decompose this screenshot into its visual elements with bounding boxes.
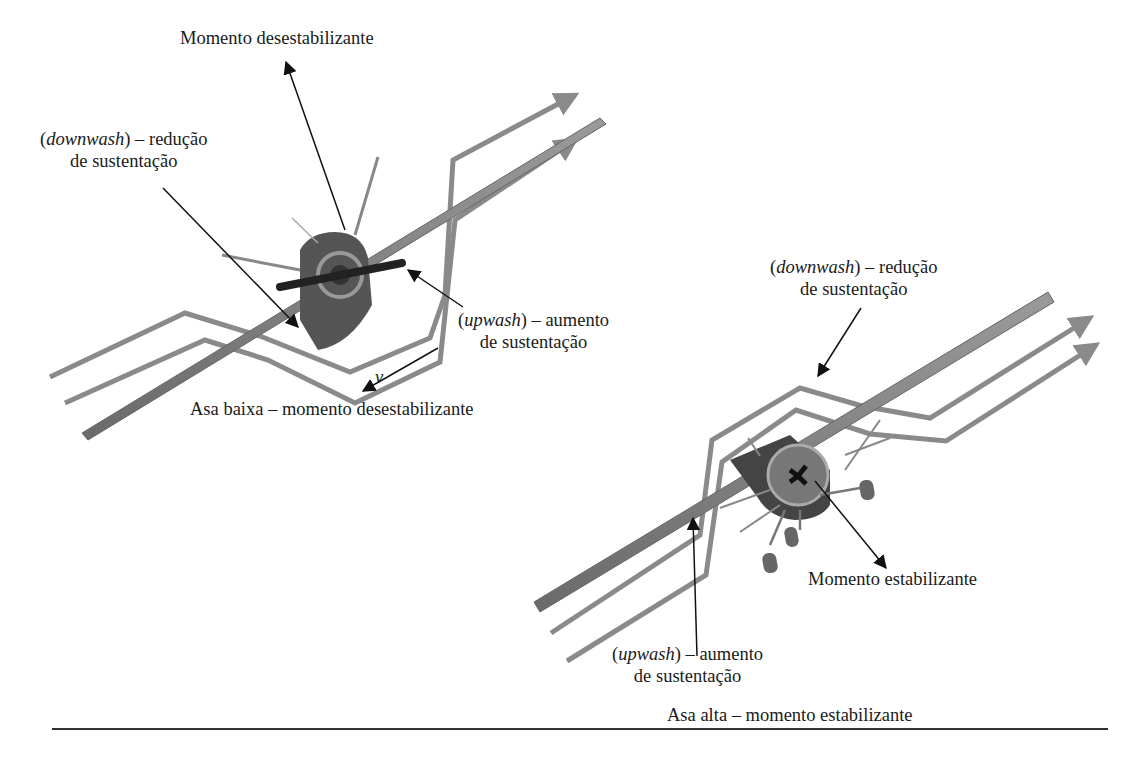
label-upwash-left: (upwash) – aumento de sustentação (458, 309, 609, 353)
downwash-term: downwash (776, 257, 854, 277)
arrow-downwash-left (163, 188, 298, 327)
streamline-4 (567, 345, 1096, 661)
caption-low-wing: Asa baixa – momento desestabilizante (190, 398, 474, 420)
arrow-stabilizing-moment (815, 481, 886, 568)
label-downwash-left: (downwash) – redução de sustentação (40, 128, 208, 172)
upwash-term: upwash (618, 644, 675, 664)
low-wing-aircraft-group (50, 62, 606, 440)
bottom-divider (52, 728, 1108, 730)
arrow-downwash-right (818, 308, 861, 376)
label-stabilizing-moment: Momento estabilizante (808, 568, 977, 590)
downwash-term: downwash (46, 129, 124, 149)
wing-stability-diagram (0, 0, 1142, 772)
label-destabilizing-moment: Momento desestabilizante (180, 27, 374, 49)
upwash-term: upwash (464, 310, 521, 330)
label-downwash-right: (downwash) – redução de sustentação (770, 256, 938, 300)
label-upwash-right: (upwash) – aumento de sustentação (612, 643, 763, 687)
low-wing-fuselage (222, 157, 402, 350)
arrow-destabilizing-moment (286, 62, 345, 230)
label-velocity: v (375, 366, 383, 388)
arrow-upwash-left (408, 270, 463, 307)
caption-high-wing: Asa alta – momento estabilizante (667, 704, 913, 726)
high-wing-aircraft-group (534, 292, 1096, 661)
